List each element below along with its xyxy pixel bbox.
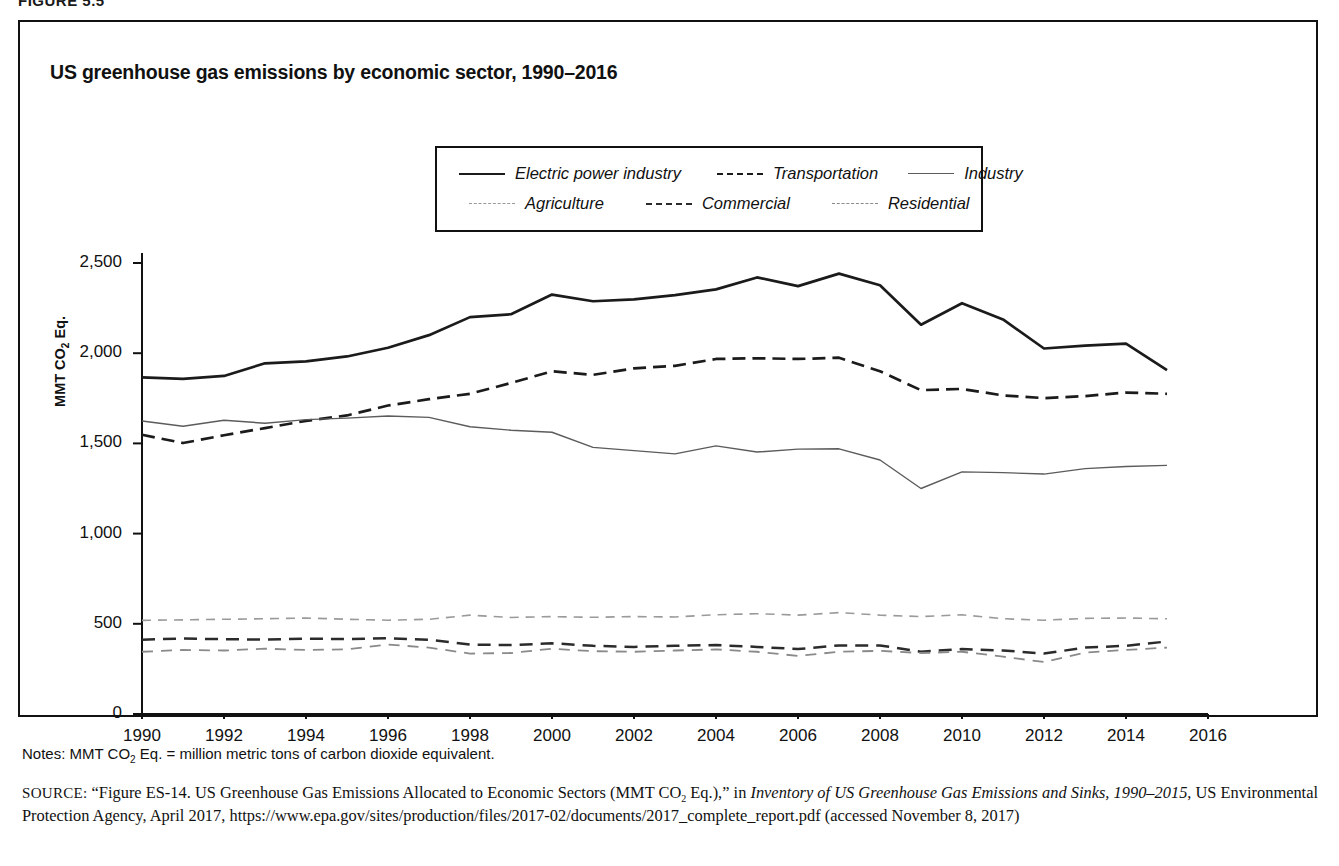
y-tick-label: 0 — [48, 703, 122, 723]
notes-line: Notes: MMT CO2 Eq. = million metric tons… — [22, 745, 495, 765]
x-tick-label: 2014 — [1096, 726, 1156, 746]
x-tick-label: 1998 — [440, 726, 500, 746]
x-tick-label: 2002 — [604, 726, 664, 746]
series-line-agriculture — [142, 613, 1167, 621]
y-tick-label: 500 — [48, 613, 122, 633]
y-tick-label: 2,500 — [48, 252, 122, 272]
x-tick-label: 1994 — [276, 726, 336, 746]
series-line-electric-power-industry — [142, 274, 1167, 379]
x-tick-label: 2008 — [850, 726, 910, 746]
x-tick-label: 2016 — [1178, 726, 1238, 746]
series-line-industry — [142, 416, 1167, 489]
y-tick-label: 1,000 — [48, 523, 122, 543]
source-citation: SOURCE: “Figure ES-14. US Greenhouse Gas… — [22, 782, 1322, 827]
figure-label: FIGURE 5.5 — [18, 0, 105, 8]
line-chart — [20, 22, 1320, 719]
y-tick-label: 2,000 — [48, 342, 122, 362]
x-tick-label: 1992 — [194, 726, 254, 746]
plot-area: MMT CO2 Eq. 05001,0001,5002,0002,500 199… — [20, 22, 1320, 719]
y-tick-label: 1,500 — [48, 432, 122, 452]
x-tick-label: 1990 — [112, 726, 172, 746]
x-tick-label: 2004 — [686, 726, 746, 746]
series-line-transportation — [142, 358, 1167, 443]
figure-container: US greenhouse gas emissions by economic … — [18, 20, 1318, 717]
x-tick-label: 2000 — [522, 726, 582, 746]
x-tick-label: 2006 — [768, 726, 828, 746]
x-tick-label: 2012 — [1014, 726, 1074, 746]
x-tick-label: 1996 — [358, 726, 418, 746]
x-tick-label: 2010 — [932, 726, 992, 746]
